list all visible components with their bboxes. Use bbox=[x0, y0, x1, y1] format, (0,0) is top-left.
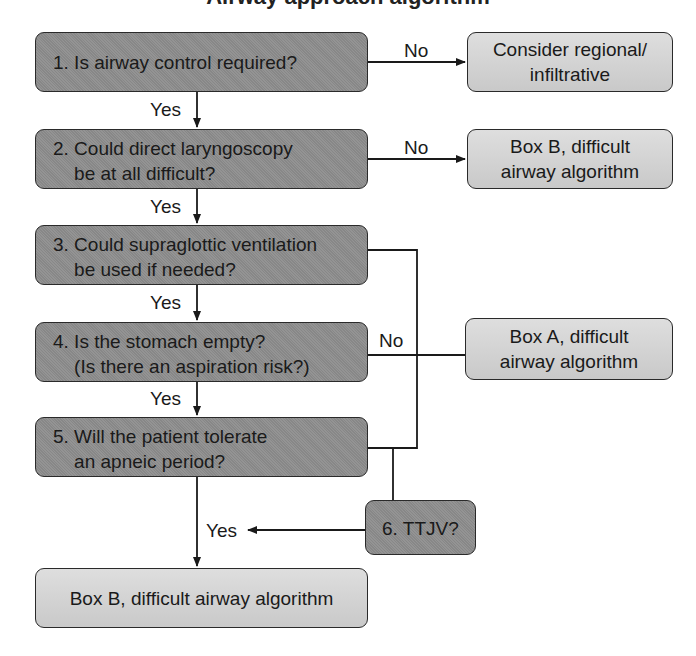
question-5-text: 5. Will the patient tolerate an apneic p… bbox=[53, 424, 267, 474]
label-no-1: No bbox=[404, 40, 428, 62]
question-1-box: 1. Is airway control required? bbox=[35, 32, 368, 92]
result-box-a-text: Box A, difficult airway algorithm bbox=[466, 319, 672, 379]
result-box-b-bottom-text: Box B, difficult airway algorithm bbox=[36, 569, 367, 627]
question-4-box: 4. Is the stomach empty? (Is there an as… bbox=[35, 322, 368, 382]
question-3-box: 3. Could supraglottic ventilation be use… bbox=[35, 225, 368, 285]
label-yes-1: Yes bbox=[150, 99, 181, 121]
result-regional-box: Consider regional/ infiltrative bbox=[467, 32, 673, 92]
label-yes-3: Yes bbox=[150, 292, 181, 314]
label-no-4: No bbox=[379, 330, 403, 352]
question-6-text: 6. TTJV? bbox=[382, 516, 459, 541]
label-yes-6: Yes bbox=[206, 520, 237, 542]
question-6-box: 6. TTJV? bbox=[365, 500, 476, 555]
result-regional-text: Consider regional/ infiltrative bbox=[468, 33, 672, 91]
question-1-text: 1. Is airway control required? bbox=[53, 50, 297, 75]
label-yes-2: Yes bbox=[150, 196, 181, 218]
question-2-box: 2. Could direct laryngoscopy be at all d… bbox=[35, 129, 368, 189]
result-box-b-bottom: Box B, difficult airway algorithm bbox=[35, 568, 368, 628]
question-5-box: 5. Will the patient tolerate an apneic p… bbox=[35, 417, 368, 477]
result-box-b-right-text: Box B, difficult airway algorithm bbox=[468, 130, 672, 188]
result-box-a: Box A, difficult airway algorithm bbox=[465, 318, 673, 380]
result-box-b-right: Box B, difficult airway algorithm bbox=[467, 129, 673, 189]
label-yes-4: Yes bbox=[150, 388, 181, 410]
question-4-text: 4. Is the stomach empty? (Is there an as… bbox=[53, 329, 310, 379]
label-no-2: No bbox=[404, 137, 428, 159]
question-3-text: 3. Could supraglottic ventilation be use… bbox=[53, 232, 317, 282]
question-2-text: 2. Could direct laryngoscopy be at all d… bbox=[53, 136, 293, 186]
